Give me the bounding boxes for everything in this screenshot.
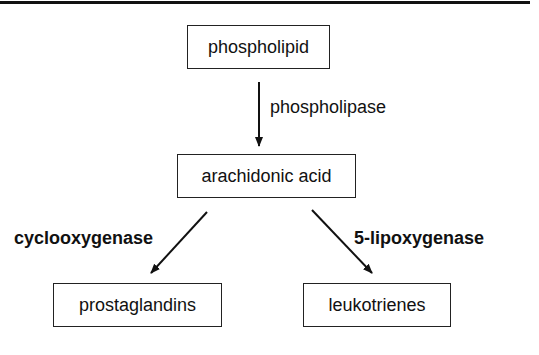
node-leukotrienes: leukotrienes	[303, 283, 451, 327]
node-phospholipid: phospholipid	[187, 25, 330, 69]
node-label: leukotrienes	[328, 295, 425, 316]
node-prostaglandins: prostaglandins	[53, 283, 222, 327]
edge-label-phospholipase: phospholipase	[270, 97, 386, 118]
edge-label-cyclooxygenase: cyclooxygenase	[14, 228, 153, 249]
edge-label-lipoxygenase: 5-lipoxygenase	[354, 228, 484, 249]
arrow-cyclooxygenase	[151, 212, 207, 273]
node-label: phospholipid	[208, 37, 309, 58]
node-arachidonic-acid: arachidonic acid	[177, 154, 356, 198]
node-label: arachidonic acid	[201, 166, 331, 187]
node-label: prostaglandins	[79, 295, 196, 316]
